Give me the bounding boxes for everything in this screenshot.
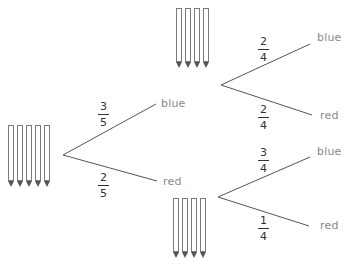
probability-fraction: 3 5 bbox=[98, 101, 109, 129]
numerator: 1 bbox=[260, 215, 267, 227]
pencil-icon bbox=[173, 198, 179, 258]
fraction-bar bbox=[98, 185, 109, 186]
fraction-bar bbox=[258, 228, 269, 229]
denominator: 4 bbox=[260, 120, 267, 132]
numerator: 3 bbox=[260, 147, 267, 159]
numerator: 2 bbox=[100, 172, 107, 184]
denominator: 4 bbox=[260, 52, 267, 64]
outcome-label-blue: blue bbox=[317, 146, 342, 158]
probability-fraction: 2 4 bbox=[258, 36, 269, 64]
denominator: 5 bbox=[100, 188, 107, 200]
branch-root-blue bbox=[63, 104, 156, 155]
outcome-label-blue: blue bbox=[317, 32, 342, 44]
outcome-label-red: red bbox=[163, 176, 182, 188]
pencil-icon bbox=[194, 8, 200, 68]
pencil-icon bbox=[191, 198, 197, 258]
pencil-icon bbox=[26, 125, 32, 187]
fraction-bar bbox=[98, 114, 109, 115]
denominator: 4 bbox=[260, 231, 267, 243]
pencil-group-after-red bbox=[173, 198, 206, 258]
pencil-icon bbox=[35, 125, 41, 187]
probability-fraction: 1 4 bbox=[258, 215, 269, 243]
denominator: 5 bbox=[100, 117, 107, 129]
probability-tree-diagram: blue red 3 5 2 5 blue red 2 4 2 4 blue r… bbox=[0, 0, 348, 267]
numerator: 2 bbox=[260, 104, 267, 116]
pencil-icon bbox=[182, 198, 188, 258]
pencil-icon bbox=[203, 8, 209, 68]
probability-fraction: 3 4 bbox=[258, 147, 269, 175]
outcome-label-red: red bbox=[320, 220, 339, 232]
fraction-bar bbox=[258, 49, 269, 50]
numerator: 3 bbox=[100, 101, 107, 113]
pencil-icon bbox=[200, 198, 206, 258]
pencil-icon bbox=[8, 125, 14, 187]
pencil-icon bbox=[185, 8, 191, 68]
pencil-group-after-blue bbox=[176, 8, 209, 68]
fraction-bar bbox=[258, 117, 269, 118]
pencil-group-root bbox=[8, 125, 50, 187]
fraction-bar bbox=[258, 160, 269, 161]
outcome-label-blue: blue bbox=[161, 98, 186, 110]
denominator: 4 bbox=[260, 163, 267, 175]
probability-fraction: 2 4 bbox=[258, 104, 269, 132]
numerator: 2 bbox=[260, 36, 267, 48]
outcome-label-red: red bbox=[320, 110, 339, 122]
pencil-icon bbox=[17, 125, 23, 187]
branch-root-red bbox=[63, 155, 157, 181]
probability-fraction: 2 5 bbox=[98, 172, 109, 200]
pencil-icon bbox=[44, 125, 50, 187]
pencil-icon bbox=[176, 8, 182, 68]
